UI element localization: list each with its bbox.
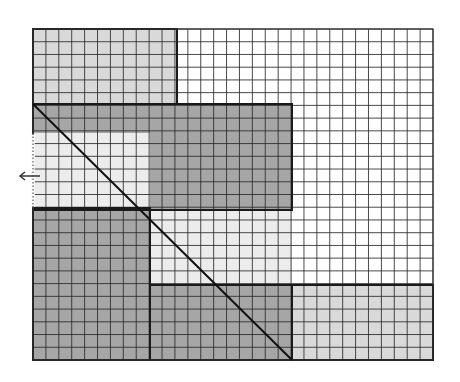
region-upper-right-dark-block bbox=[150, 133, 292, 210]
grid-diagram-canvas bbox=[0, 0, 460, 382]
region-middle-light bbox=[150, 210, 292, 285]
dotted-edge-mask-top bbox=[32, 135, 35, 207]
region-left-light-notch bbox=[33, 133, 150, 208]
grid-diagram bbox=[0, 0, 460, 382]
